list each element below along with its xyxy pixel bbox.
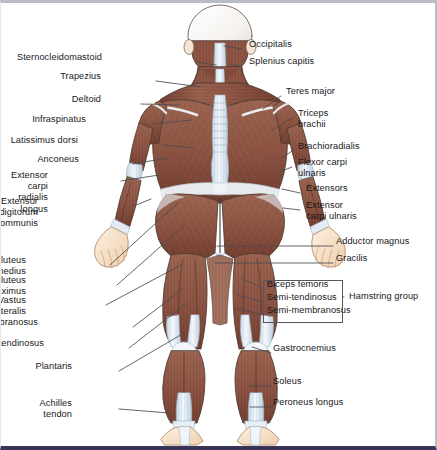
muscle-label-peroneus-longus: Peroneus longus <box>273 397 343 408</box>
muscle-label-latissimus-dorsi: Latissimus dorsi <box>11 135 78 146</box>
muscle-label-splenius-capitis: Splenius capitis <box>249 56 314 67</box>
muscle-label-extensor-digitorum-communis: Extensor digitorum communis <box>0 196 38 230</box>
anatomy-diagram: SternocleidomastoidTrapeziusDeltoidInfra… <box>0 0 437 450</box>
hamstring-group-bracket <box>263 280 343 323</box>
leader-line <box>283 208 300 210</box>
muscle-label-brachioradialis: Brachioradialis <box>298 141 360 152</box>
leader-line <box>282 189 300 193</box>
muscle-label-gracilis: Gracilis <box>336 253 367 264</box>
muscle-label-anconeus: Anconeus <box>37 154 79 165</box>
muscle-label-vastus-lateralis: Vastus lateralis <box>0 295 26 317</box>
muscle-label-teres-major: Teres major <box>286 86 335 97</box>
muscle-label-achilles-tendon: Achilles tendon <box>40 398 72 420</box>
muscle-label-extensor-carpi-ulnaris: Extensor carpi ulnaris <box>306 200 357 222</box>
muscle-label-deltoid: Deltoid <box>72 94 101 105</box>
muscle-label-gastrocnemius: Gastrocnemius <box>273 343 336 354</box>
muscle-label-sternocleidomastoid: Sternocleidomastoid <box>17 52 102 63</box>
muscle-label-occipitalis: Occipitalis <box>249 39 292 50</box>
muscle-label-adductor-magnus: Adductor magnus <box>336 236 409 247</box>
muscle-label-soleus: Soleus <box>273 376 302 387</box>
leader-line <box>119 409 169 413</box>
muscle-label-plantaris: Plantaris <box>35 361 72 372</box>
muscle-label-extensors: Extensors <box>306 183 348 194</box>
muscle-label-triceps-brachii: Triceps brachii <box>298 108 328 130</box>
hamstring-group-label: Hamstring group <box>349 291 418 302</box>
muscle-label-trapezius: Trapezius <box>60 71 101 82</box>
muscle-label-semimembranosus: Semimembranosus <box>0 317 38 328</box>
muscle-label-infraspinatus: Infraspinatus <box>32 114 86 125</box>
muscle-label-semitendinosus: Semitendinosus <box>0 338 44 349</box>
muscle-label-flexor-carpi-ulnaris: Flexor carpi ulnaris <box>298 157 347 179</box>
